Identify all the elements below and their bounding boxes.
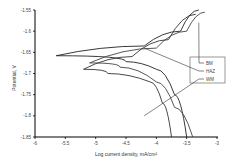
- y-ticks: -1.55-1.6-1.65-1.7-1.75-1.8-1.85: [21, 8, 35, 140]
- x-tick-label: -5.5: [61, 141, 69, 146]
- legend-item-bm: BM: [206, 61, 213, 66]
- x-tick-label: -6: [33, 141, 37, 146]
- legend-item-wm: WM: [206, 77, 214, 82]
- polarization-chart: -1.55-1.6-1.65-1.7-1.75-1.8-1.85 -6-5.5-…: [0, 0, 247, 162]
- y-tick-label: -1.55: [21, 8, 32, 13]
- y-tick-label: -1.85: [21, 135, 32, 140]
- y-tick-label: -1.6: [23, 29, 31, 34]
- curve-haz: [90, 12, 205, 137]
- x-tick-label: -4: [154, 141, 158, 146]
- x-tick-label: -3: [215, 141, 219, 146]
- curves: [56, 10, 205, 137]
- y-tick-label: -1.7: [23, 71, 31, 76]
- x-ticks: -6-5.5-5-4.5-4-3.5-3: [33, 137, 219, 146]
- y-tick-label: -1.75: [21, 92, 32, 97]
- y-tick-label: -1.65: [21, 50, 32, 55]
- y-axis-label: Potential, V: [11, 65, 17, 91]
- x-tick-label: -3.5: [183, 141, 191, 146]
- legend-item-haz: HAZ: [206, 69, 215, 74]
- x-axis-label: Log current density, mA/cm²: [95, 151, 157, 157]
- y-tick-label: -1.8: [23, 113, 31, 118]
- curve-bm: [56, 10, 199, 137]
- x-tick-label: -4.5: [122, 141, 130, 146]
- x-tick-label: -5: [94, 141, 98, 146]
